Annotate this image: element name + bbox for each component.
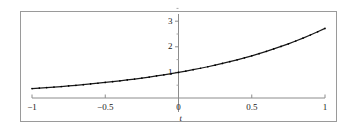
y-tick-label: 2 [145, 42, 173, 51]
data-point [236, 59, 238, 61]
data-point [310, 34, 312, 36]
data-point [302, 37, 304, 39]
data-point [31, 88, 33, 90]
data-point [141, 77, 143, 79]
data-point [229, 61, 231, 63]
data-point [288, 43, 290, 45]
data-point [295, 40, 297, 42]
data-point [75, 84, 77, 86]
data-point [38, 87, 40, 89]
data-point [104, 82, 106, 84]
data-point [126, 79, 128, 81]
data-point [222, 63, 224, 65]
y-tick-label: 3 [145, 17, 173, 26]
data-point [200, 67, 202, 69]
data-point [258, 53, 260, 55]
data-point [60, 86, 62, 88]
data-point [207, 66, 209, 68]
x-tick-label: 0 [159, 103, 199, 112]
y-tick-label: 1 [145, 68, 173, 77]
y-axis-ticks [175, 21, 179, 72]
data-point [134, 78, 136, 80]
data-point [97, 82, 99, 84]
data-point [251, 55, 253, 57]
data-point [46, 87, 48, 89]
x-tick-label: −1 [12, 103, 52, 112]
data-point [119, 80, 121, 82]
data-point [185, 70, 187, 72]
data-point [90, 83, 92, 85]
data-point [273, 48, 275, 50]
data-point [244, 57, 246, 59]
x-axis-ticks [32, 95, 325, 99]
data-point [280, 46, 282, 48]
data-point [317, 31, 319, 33]
figure-container: −1−0.500.51 123 t [0, 0, 357, 130]
data-point [266, 51, 268, 53]
x-tick-label: 1 [305, 103, 345, 112]
data-point [82, 84, 84, 86]
data-point [53, 86, 55, 88]
data-point [68, 85, 70, 87]
data-point [178, 72, 180, 74]
x-tick-label: 0.5 [232, 103, 272, 112]
data-point [324, 28, 326, 30]
x-axis-label: t [180, 114, 182, 123]
data-point [192, 69, 194, 71]
x-tick-label: −0.5 [85, 103, 125, 112]
data-point [214, 64, 216, 66]
data-point [112, 81, 114, 83]
